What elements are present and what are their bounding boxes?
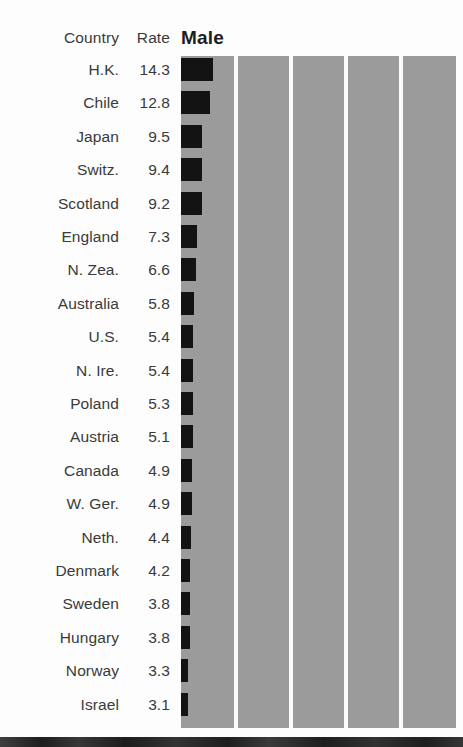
row-rate-value: 4.9 (123, 462, 170, 480)
row-rate-value: 3.3 (123, 662, 170, 680)
row-bar (181, 626, 190, 649)
row-rate-value: 9.2 (123, 195, 170, 213)
row-country-label: N. Zea. (0, 261, 119, 279)
row-rate-value: 5.4 (123, 362, 170, 380)
row-rate-value: 5.3 (123, 395, 170, 413)
row-bar (181, 492, 192, 515)
row-country-label: England (0, 228, 119, 246)
row-country-label: Norway (0, 662, 119, 680)
chart-row: Canada4.9 (0, 457, 463, 490)
row-country-label: N. Ire. (0, 362, 119, 380)
row-bar (181, 592, 190, 615)
row-country-label: Scotland (0, 195, 119, 213)
row-rate-value: 4.9 (123, 495, 170, 513)
chart-row: N. Zea.6.6 (0, 256, 463, 289)
row-bar (181, 192, 202, 215)
bottom-dark-band (0, 737, 463, 747)
chart-row: Neth.4.4 (0, 524, 463, 557)
chart-row: H.K.14.3 (0, 56, 463, 89)
row-bar (181, 225, 197, 248)
table-header-row: Country Rate Male (0, 29, 463, 53)
chart-row: N. Ire.5.4 (0, 357, 463, 390)
chart-row: Austria5.1 (0, 423, 463, 456)
bottom-band-texture (0, 737, 463, 747)
row-bar (181, 459, 192, 482)
row-country-label: Hungary (0, 629, 119, 647)
row-bar (181, 91, 210, 114)
column-header-rate: Rate (123, 29, 170, 47)
row-country-label: Japan (0, 128, 119, 146)
row-rate-value: 9.4 (123, 161, 170, 179)
column-header-country: Country (0, 29, 119, 47)
row-bar (181, 158, 202, 181)
chart-row: Australia5.8 (0, 290, 463, 323)
chart-row: Israel3.1 (0, 691, 463, 724)
row-country-label: Israel (0, 696, 119, 714)
row-rate-value: 3.8 (123, 629, 170, 647)
chart-row: W. Ger.4.9 (0, 490, 463, 523)
row-bar (181, 392, 193, 415)
row-country-label: H.K. (0, 61, 119, 79)
row-rate-value: 5.4 (123, 328, 170, 346)
row-country-label: Denmark (0, 562, 119, 580)
row-country-label: Austria (0, 428, 119, 446)
row-country-label: Australia (0, 295, 119, 313)
row-rate-value: 7.3 (123, 228, 170, 246)
row-bar (181, 425, 193, 448)
row-bar (181, 58, 213, 81)
row-bar (181, 693, 188, 716)
row-rate-value: 5.8 (123, 295, 170, 313)
chart-row: Norway3.3 (0, 657, 463, 690)
row-country-label: Neth. (0, 529, 119, 547)
chart-row: Switz.9.4 (0, 156, 463, 189)
chart-row: Denmark4.2 (0, 557, 463, 590)
row-country-label: W. Ger. (0, 495, 119, 513)
row-country-label: Poland (0, 395, 119, 413)
row-bar (181, 125, 202, 148)
row-rate-value: 3.8 (123, 595, 170, 613)
row-bar (181, 526, 191, 549)
row-rate-value: 9.5 (123, 128, 170, 146)
chart-page: Country Rate Male H.K.14.3Chile12.8Japan… (0, 0, 463, 747)
row-bar (181, 559, 190, 582)
chart-row: England7.3 (0, 223, 463, 256)
panel-title: Male (181, 27, 224, 49)
row-rate-value: 14.3 (123, 61, 170, 79)
row-rate-value: 5.1 (123, 428, 170, 446)
row-country-label: Canada (0, 462, 119, 480)
row-country-label: Chile (0, 94, 119, 112)
row-bar (181, 292, 194, 315)
chart-row: Japan9.5 (0, 123, 463, 156)
row-rate-value: 4.2 (123, 562, 170, 580)
row-bar (181, 258, 196, 281)
chart-row: U.S.5.4 (0, 323, 463, 356)
chart-row: Hungary3.8 (0, 624, 463, 657)
row-country-label: Switz. (0, 161, 119, 179)
row-rate-value: 3.1 (123, 696, 170, 714)
row-rate-value: 12.8 (123, 94, 170, 112)
row-bar (181, 325, 193, 348)
row-country-label: U.S. (0, 328, 119, 346)
chart-row: Scotland9.2 (0, 190, 463, 223)
row-rate-value: 6.6 (123, 261, 170, 279)
row-bar (181, 659, 188, 682)
row-bar (181, 359, 193, 382)
chart-row: Poland5.3 (0, 390, 463, 423)
chart-row: Sweden3.8 (0, 590, 463, 623)
chart-row: Chile12.8 (0, 89, 463, 122)
row-country-label: Sweden (0, 595, 119, 613)
row-rate-value: 4.4 (123, 529, 170, 547)
